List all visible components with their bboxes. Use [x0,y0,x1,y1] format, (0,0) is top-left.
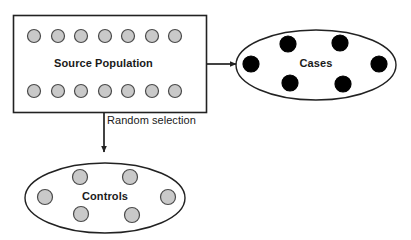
source-population-member-circle [146,30,159,43]
source-population-member-circle [99,85,112,98]
controls-label: Controls [25,191,185,202]
source-population-member-circle [122,30,135,43]
case-member-circle [335,76,351,92]
source-population-member-circle [52,30,65,43]
source-population-member-circle [146,85,159,98]
random-selection-edge-label: Random selection [107,115,196,126]
case-member-circle [282,75,298,91]
source-population-member-circle [99,30,112,43]
source-population-member-circle [28,30,41,43]
source-population-member-circle [75,85,88,98]
control-member-circle [125,208,140,223]
case-member-circle [332,35,348,51]
source-population-member-circle [52,85,65,98]
cases-label: Cases [236,58,396,69]
source-population-label: Source Population [0,58,207,69]
control-member-circle [73,170,88,185]
control-member-circle [123,170,138,185]
source-population-member-circle [169,30,182,43]
case-member-circle [280,36,296,52]
source-population-member-circle [169,85,182,98]
diagram-canvas [0,0,411,240]
source-population-member-circle [122,85,135,98]
source-population-member-circle [28,85,41,98]
control-member-circle [74,207,89,222]
source-population-member-circle [75,30,88,43]
